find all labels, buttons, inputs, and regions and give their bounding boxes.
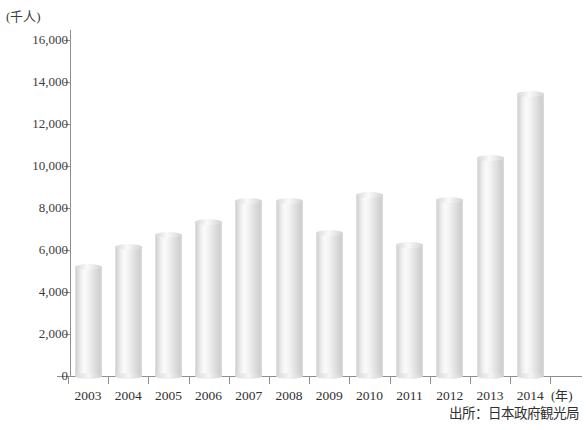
bar-base-ellipse (115, 373, 142, 379)
bar-base-ellipse (75, 373, 102, 379)
bar-2011 (396, 245, 423, 376)
bar-top-ellipse (517, 91, 544, 97)
y-axis-tick-label: 0 (6, 369, 68, 382)
bar-2005 (155, 235, 182, 376)
y-axis-tick-label: 16,000 (6, 33, 68, 46)
x-axis-tick (430, 377, 431, 384)
x-axis-tick (189, 377, 190, 384)
bar-2004 (115, 247, 142, 376)
source-note: 出所：日本政府観光局 (449, 406, 579, 422)
bar-2009 (316, 233, 343, 376)
y-axis-tick-label: 8,000 (6, 201, 68, 214)
bar-base-ellipse (477, 373, 504, 379)
bar-top-ellipse (115, 244, 142, 250)
bar-2007 (235, 201, 262, 376)
bar-top-ellipse (155, 232, 182, 238)
bar-base-ellipse (276, 373, 303, 379)
y-axis-tick-label: 6,000 (6, 243, 68, 256)
bar-base-ellipse (396, 373, 423, 379)
x-axis-tick (550, 377, 551, 384)
bar-base-ellipse (356, 373, 383, 379)
x-axis-tick (349, 377, 350, 384)
plot-area: 16,00014,00012,00010,0008,0006,0004,0002… (0, 0, 587, 430)
bar-base-ellipse (436, 373, 463, 379)
x-axis-tick-label: 2007 (227, 388, 271, 403)
bar-base-ellipse (155, 373, 182, 379)
x-axis-tick (269, 377, 270, 384)
x-axis-tick-label: 2013 (468, 388, 512, 403)
x-axis-tick (229, 377, 230, 384)
x-axis-tick-label: 2003 (66, 388, 110, 403)
x-axis-tick-label: 2004 (106, 388, 150, 403)
x-axis-tick (148, 377, 149, 384)
x-axis-tick-label: 2008 (267, 388, 311, 403)
x-axis-tick (390, 377, 391, 384)
bar-2006 (195, 222, 222, 376)
bar-base-ellipse (235, 373, 262, 379)
y-axis-tick-label: 12,000 (6, 117, 68, 130)
x-axis-tick-label: 2012 (428, 388, 472, 403)
bar-2003 (75, 267, 102, 376)
bar-2010 (356, 195, 383, 376)
y-axis-tick-label: 14,000 (6, 75, 68, 88)
bar-top-ellipse (195, 219, 222, 225)
y-axis-tick-label: 2,000 (6, 327, 68, 340)
chart-container: (千人) 16,00014,00012,00010,0008,0006,0004… (0, 0, 587, 430)
bar-top-ellipse (276, 198, 303, 204)
x-axis-tick (510, 377, 511, 384)
bar-2013 (477, 158, 504, 376)
x-axis-tick-label: 2006 (187, 388, 231, 403)
x-axis-tick-label: 2014 (508, 388, 552, 403)
bar-base-ellipse (195, 373, 222, 379)
bar-base-ellipse (316, 373, 343, 379)
bar-2008 (276, 201, 303, 376)
bar-top-ellipse (316, 230, 343, 236)
x-axis-tick (470, 377, 471, 384)
bar-2012 (436, 200, 463, 376)
bar-top-ellipse (356, 192, 383, 198)
x-axis-tick-label: 2010 (347, 388, 391, 403)
bar-top-ellipse (436, 197, 463, 203)
x-axis-tick (68, 377, 69, 384)
x-axis-tick-label: 2009 (307, 388, 351, 403)
bar-top-ellipse (235, 198, 262, 204)
y-axis-tick-label: 4,000 (6, 285, 68, 298)
bar-top-ellipse (477, 155, 504, 161)
bar-top-ellipse (396, 242, 423, 248)
x-axis-tick (108, 377, 109, 384)
x-axis-tick-label: 2005 (146, 388, 190, 403)
bar-base-ellipse (517, 373, 544, 379)
y-axis-tick-label: 10,000 (6, 159, 68, 172)
bar-top-ellipse (75, 264, 102, 270)
x-axis-tick-label: 2011 (388, 388, 432, 403)
x-axis-unit-label: (年) (551, 388, 573, 403)
bar-2014 (517, 94, 544, 376)
x-axis-tick (309, 377, 310, 384)
